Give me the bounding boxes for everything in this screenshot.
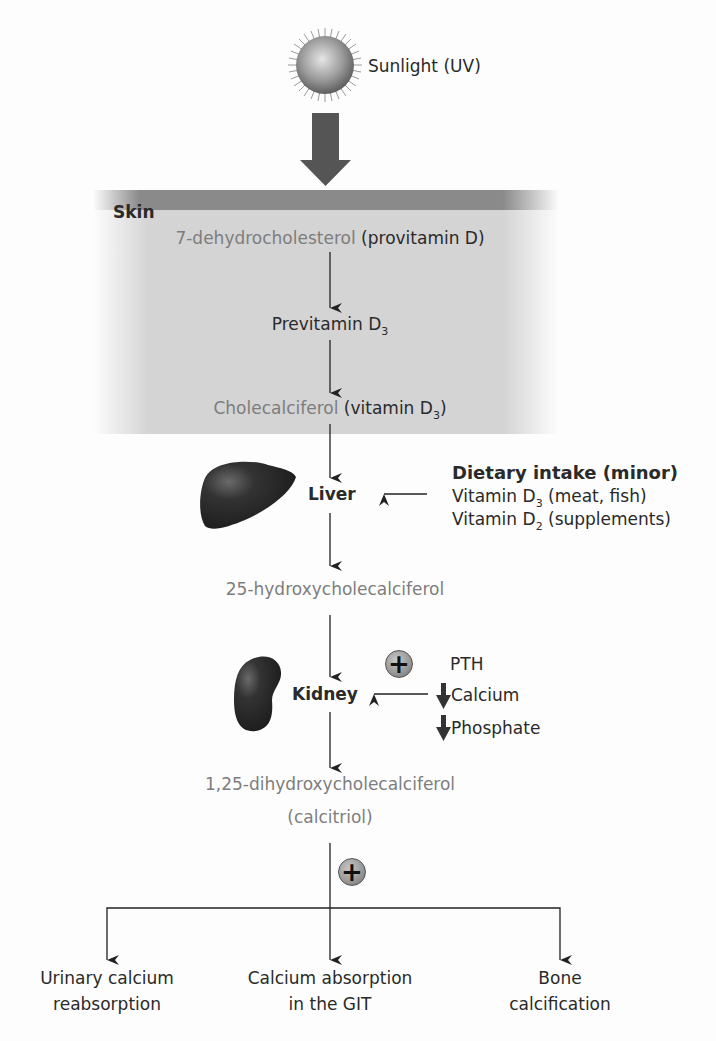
provitamin-d-chemical-name: 7-dehydrocholesterol — [175, 228, 355, 248]
dietary-item-source: (supplements) — [543, 509, 671, 529]
cholecalciferol-chemical-name: Cholecalciferol — [213, 398, 338, 418]
dietary-item-prefix: Vitamin D — [452, 486, 536, 506]
dietary-item-prefix: Vitamin D — [452, 509, 536, 529]
regulator-phosphate: Phosphate — [451, 718, 540, 738]
liver-icon — [200, 462, 296, 529]
dietary-intake-box: Dietary intake (minor) Vitamin D3 (meat,… — [452, 461, 678, 531]
effect-line: in the GIT — [248, 991, 413, 1017]
close-paren: ) — [440, 398, 447, 418]
effect-calcium-absorption-git: Calcium absorption in the GIT — [248, 965, 413, 1017]
regulator-pth: PTH — [450, 654, 483, 674]
dietary-item-source: (meat, fish) — [543, 486, 647, 506]
sunlight-label: Sunlight (UV) — [368, 56, 481, 76]
subscript: 3 — [381, 325, 388, 338]
effect-line: reabsorption — [40, 991, 174, 1017]
effect-bone-calcification: Bone calcification — [509, 965, 611, 1017]
effect-urinary-calcium-reabsorption: Urinary calcium reabsorption — [40, 965, 174, 1017]
provitamin-d-node: 7-dehydrocholesterol (provitamin D) — [175, 228, 484, 248]
regulator-calcium: Calcium — [451, 685, 519, 705]
dietary-item-vitamin-d2: Vitamin D2 (supplements) — [452, 508, 678, 531]
cholecalciferol-node: Cholecalciferol (vitamin D3) — [213, 398, 446, 418]
decrease-arrow-icon — [436, 715, 451, 741]
kidney-label: Kidney — [292, 684, 358, 704]
vitamin-d3-common-name: (vitamin D — [338, 398, 432, 418]
kidney-icon — [234, 656, 281, 731]
subscript: 2 — [536, 520, 543, 533]
dietary-item-vitamin-d3: Vitamin D3 (meat, fish) — [452, 485, 678, 508]
effect-line: Calcium absorption — [248, 965, 413, 991]
stimulation-plus-icon: + — [338, 858, 366, 886]
previtamin-d3-label: Previtamin D — [272, 314, 381, 334]
uv-down-arrow-icon — [300, 113, 351, 186]
sun-icon — [288, 28, 362, 102]
hydroxycholecalciferol-node: 25-hydroxycholecalciferol — [226, 579, 444, 599]
provitamin-d-common-name: (provitamin D) — [356, 228, 485, 248]
effect-line: Urinary calcium — [40, 965, 174, 991]
stimulation-plus-icon: + — [385, 650, 413, 678]
effect-line: Bone — [509, 965, 611, 991]
previtamin-d3-node: Previtamin D3 — [272, 314, 388, 334]
decrease-arrow-icon — [436, 683, 451, 709]
effect-line: calcification — [509, 991, 611, 1017]
calcitriol-chemical-name: 1,25-dihydroxycholecalciferol — [205, 774, 455, 794]
liver-label: Liver — [308, 484, 356, 504]
dietary-intake-title: Dietary intake (minor) — [452, 461, 678, 485]
skin-label: Skin — [113, 202, 154, 222]
calcitriol-common-name: (calcitriol) — [287, 807, 372, 827]
